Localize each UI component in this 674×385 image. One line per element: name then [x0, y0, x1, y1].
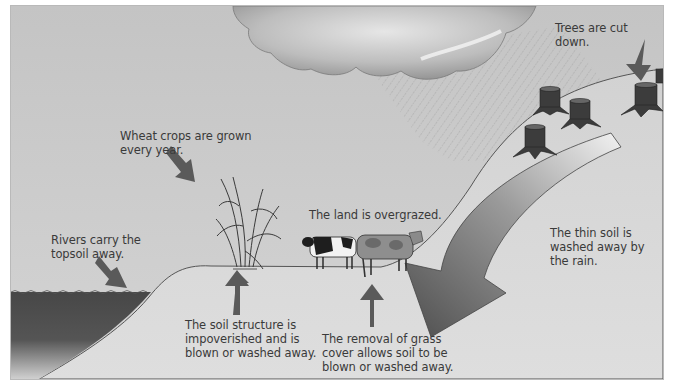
soil-erosion-diagram: Wheat crops are grown every year. Rivers… — [0, 0, 674, 385]
label-thin-soil: The thin soil is washed away by the rain… — [550, 226, 644, 268]
label-rivers: Rivers carry the topsoil away. — [51, 233, 141, 261]
label-trees: Trees are cut down. — [555, 21, 663, 49]
label-overgrazed: The land is overgrazed. — [309, 208, 442, 222]
diagram-frame: Wheat crops are grown every year. Rivers… — [10, 5, 664, 380]
label-soil-structure: The soil structure is impoverished and i… — [185, 318, 316, 360]
tree-stump-icon — [656, 69, 663, 83]
label-wheat: Wheat crops are grown every year. — [120, 129, 251, 157]
label-grass-cover: The removal of grass cover allows soil t… — [322, 332, 453, 374]
scene — [11, 6, 663, 379]
